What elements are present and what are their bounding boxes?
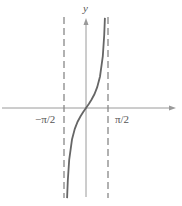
x-tick-label-pos-half-pi: π/2: [115, 114, 129, 125]
tangent-plot: [0, 0, 182, 206]
x-tick-label-neg-half-pi: −π/2: [35, 114, 55, 125]
x-axis-arrow-icon: [169, 106, 176, 111]
y-axis-label: y: [83, 3, 88, 14]
y-axis-arrow-icon: [84, 18, 89, 25]
